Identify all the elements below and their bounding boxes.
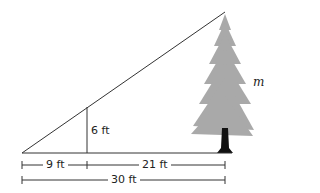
total-base-label: 30 ft	[108, 174, 140, 186]
post-height-label: 6 ft	[91, 125, 110, 137]
short-base-label: 9 ft	[43, 159, 68, 171]
tree-icon	[191, 14, 254, 136]
remaining-base-label: 21 ft	[139, 159, 171, 171]
tree-height-label: m	[253, 75, 264, 89]
